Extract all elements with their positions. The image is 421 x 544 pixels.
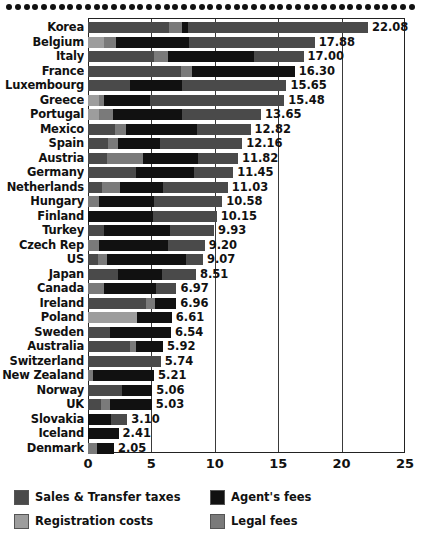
stacked-bar[interactable] bbox=[88, 428, 119, 439]
chart-row: Portugal13.65 bbox=[0, 107, 421, 122]
stacked-bar[interactable] bbox=[88, 370, 154, 381]
chart-row: Japan8.51 bbox=[0, 267, 421, 282]
bar-segment-agent bbox=[116, 37, 190, 48]
bar-segment-sales bbox=[254, 51, 303, 62]
stacked-bar[interactable] bbox=[88, 124, 251, 135]
bar-segment-sales bbox=[186, 254, 203, 265]
bar-value-label: 15.65 bbox=[286, 78, 326, 93]
stacked-bar[interactable] bbox=[88, 211, 217, 222]
chart-row: Korea22.08 bbox=[0, 20, 421, 35]
bar-value-label: 6.97 bbox=[176, 281, 208, 296]
bar-segment-sales bbox=[88, 298, 146, 309]
stacked-bar[interactable] bbox=[88, 182, 228, 193]
bar-segment-agent bbox=[107, 254, 186, 265]
border-dot bbox=[129, 4, 135, 10]
bar-segment-agent bbox=[93, 370, 154, 381]
border-dot bbox=[102, 4, 108, 10]
bar-segment-registration bbox=[88, 37, 104, 48]
chart-container: Korea22.08Belgium17.88Italy17.00France16… bbox=[0, 0, 421, 544]
bar-value-label: 5.03 bbox=[152, 397, 184, 412]
stacked-bar[interactable] bbox=[88, 283, 176, 294]
stacked-bar[interactable] bbox=[88, 240, 205, 251]
bar-value-label: 17.00 bbox=[304, 49, 344, 64]
stacked-bar[interactable] bbox=[88, 66, 295, 77]
border-dot bbox=[242, 4, 248, 10]
legend-item-registration[interactable]: Registration costs bbox=[14, 511, 153, 531]
category-label: Netherlands bbox=[0, 180, 84, 195]
stacked-bar[interactable] bbox=[88, 269, 196, 280]
border-dot bbox=[50, 4, 56, 10]
border-dot bbox=[146, 4, 152, 10]
bar-segment-sales bbox=[88, 399, 101, 410]
x-tick-20: 20 bbox=[333, 455, 351, 473]
bar-value-label: 8.51 bbox=[196, 267, 228, 282]
category-label: Greece bbox=[0, 93, 84, 108]
bar-segment-sales bbox=[189, 37, 314, 48]
category-label: US bbox=[0, 252, 84, 267]
stacked-bar[interactable] bbox=[88, 254, 203, 265]
chart-row: Greece15.48 bbox=[0, 93, 421, 108]
bar-segment-agent bbox=[130, 80, 182, 91]
border-dot bbox=[76, 4, 82, 10]
stacked-bar[interactable] bbox=[88, 298, 176, 309]
stacked-bar[interactable] bbox=[88, 138, 242, 149]
stacked-bar[interactable] bbox=[88, 385, 152, 396]
category-label: Sweden bbox=[0, 325, 84, 340]
bar-segment-legal bbox=[88, 196, 99, 207]
bar-value-label: 22.08 bbox=[368, 20, 408, 35]
bar-segment-sales bbox=[188, 22, 368, 33]
stacked-bar[interactable] bbox=[88, 443, 114, 454]
stacked-bar[interactable] bbox=[88, 80, 286, 91]
category-label: Belgium bbox=[0, 35, 84, 50]
bar-segment-sales bbox=[88, 66, 181, 77]
stacked-bar[interactable] bbox=[88, 414, 127, 425]
stacked-bar[interactable] bbox=[88, 95, 284, 106]
bar-segment-sales bbox=[168, 240, 205, 251]
border-dot bbox=[199, 4, 205, 10]
bar-segment-agent bbox=[120, 182, 163, 193]
chart-row: Italy17.00 bbox=[0, 49, 421, 64]
stacked-bar[interactable] bbox=[88, 167, 233, 178]
chart-row: Denmark2.05 bbox=[0, 441, 421, 456]
bar-value-label: 2.41 bbox=[119, 426, 151, 441]
x-tick-0: 0 bbox=[83, 455, 92, 473]
bar-segment-sales bbox=[88, 182, 102, 193]
bar-segment-agent bbox=[118, 138, 160, 149]
bar-segment-registration bbox=[88, 109, 99, 120]
stacked-bar[interactable] bbox=[88, 327, 171, 338]
category-label: Luxembourg bbox=[0, 78, 84, 93]
stacked-bar[interactable] bbox=[88, 37, 315, 48]
stacked-bar[interactable] bbox=[88, 225, 214, 236]
stacked-bar[interactable] bbox=[88, 399, 152, 410]
bar-value-label: 5.92 bbox=[163, 339, 195, 354]
legend-item-sales[interactable]: Sales & Transfer taxes bbox=[14, 487, 181, 507]
chart-row: Spain12.16 bbox=[0, 136, 421, 151]
category-label: New Zealand bbox=[0, 368, 84, 383]
legend-item-legal[interactable]: Legal fees bbox=[210, 511, 298, 531]
stacked-bar[interactable] bbox=[88, 312, 172, 323]
bar-segment-agent bbox=[143, 153, 199, 164]
border-dot bbox=[155, 4, 161, 10]
category-label: Slovakia bbox=[0, 412, 84, 427]
bar-segment-sales bbox=[88, 22, 169, 33]
x-tick-10: 10 bbox=[206, 455, 224, 473]
bar-segment-agent bbox=[104, 283, 156, 294]
chart-row: Austria11.82 bbox=[0, 151, 421, 166]
bar-segment-agent bbox=[137, 312, 171, 323]
chart-row: Mexico12.82 bbox=[0, 122, 421, 137]
bar-segment-agent bbox=[168, 51, 254, 62]
stacked-bar[interactable] bbox=[88, 153, 238, 164]
stacked-bar[interactable] bbox=[88, 196, 222, 207]
border-dot bbox=[6, 4, 12, 10]
stacked-bar[interactable] bbox=[88, 109, 261, 120]
bar-value-label: 11.45 bbox=[233, 165, 273, 180]
stacked-bar[interactable] bbox=[88, 22, 368, 33]
category-label: Poland bbox=[0, 310, 84, 325]
legend-label: Sales & Transfer taxes bbox=[35, 490, 181, 504]
stacked-bar[interactable] bbox=[88, 51, 304, 62]
legend-item-agent[interactable]: Agent's fees bbox=[210, 487, 311, 507]
stacked-bar[interactable] bbox=[88, 341, 163, 352]
bar-value-label: 6.61 bbox=[172, 310, 204, 325]
bar-value-label: 10.15 bbox=[217, 209, 257, 224]
stacked-bar[interactable] bbox=[88, 356, 161, 367]
